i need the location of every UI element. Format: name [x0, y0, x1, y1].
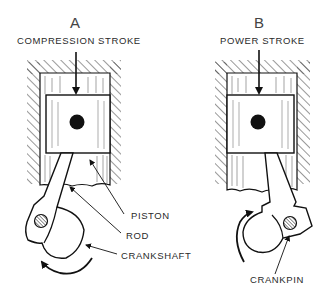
crankpin [284, 217, 297, 230]
panel-a-title: COMPRESSION STROKE [17, 36, 141, 46]
piston-label: PISTON [131, 211, 170, 221]
cylinder-wall-right [297, 62, 310, 184]
wrist-pin [251, 115, 266, 130]
cylinder-wall-left [215, 62, 227, 184]
cylinder-head [215, 60, 310, 74]
panel-b-title: POWER STROKE [220, 36, 305, 46]
wrist-pin [70, 115, 85, 130]
cylinder-wall-left [27, 62, 40, 184]
crankshaft-label: CRANKSHAFT [121, 251, 191, 261]
panel-b [215, 50, 312, 274]
crankpin [35, 215, 48, 228]
cylinder-head [27, 60, 121, 74]
panel-b-letter: B [254, 15, 264, 30]
panel-a-letter: A [70, 15, 80, 30]
cylinder-wall-right [110, 62, 121, 184]
crankpin-label: CRANKPIN [250, 275, 304, 285]
rod-label: ROD [126, 231, 149, 241]
rotation-arrow-icon [42, 258, 92, 274]
panel-a [26, 52, 124, 274]
